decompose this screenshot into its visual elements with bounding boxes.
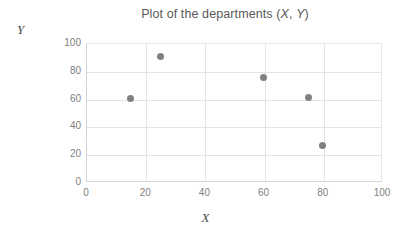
y-tick-label: 40 bbox=[53, 120, 81, 131]
data-point bbox=[127, 95, 134, 102]
x-tick-label: 80 bbox=[308, 187, 338, 198]
data-point bbox=[157, 53, 164, 60]
gridline-vertical bbox=[146, 44, 147, 181]
plot-area bbox=[86, 43, 382, 182]
chart-title-prefix: Plot of the departments ( bbox=[141, 7, 280, 21]
x-tick-label: 100 bbox=[367, 187, 397, 198]
gridline-vertical bbox=[324, 44, 325, 181]
gridline-horizontal bbox=[87, 155, 381, 156]
x-tick-label: 60 bbox=[249, 187, 279, 198]
chart-title: Plot of the departments (X, Y) bbox=[60, 7, 390, 21]
scatter-chart: Plot of the departments (X, Y) Y X 02040… bbox=[0, 0, 411, 241]
gridline-horizontal bbox=[87, 127, 381, 128]
x-axis-title: X bbox=[0, 210, 411, 226]
gridline-vertical bbox=[205, 44, 206, 181]
chart-title-suffix: ) bbox=[305, 7, 309, 21]
y-axis-title: Y bbox=[17, 22, 24, 38]
x-tick-label: 40 bbox=[189, 187, 219, 198]
y-tick-label: 20 bbox=[53, 148, 81, 159]
gridline-horizontal bbox=[87, 72, 381, 73]
gridline-vertical bbox=[265, 44, 266, 181]
x-tick-label: 0 bbox=[71, 187, 101, 198]
x-tick-label: 20 bbox=[130, 187, 160, 198]
y-tick-label: 100 bbox=[53, 37, 81, 48]
y-tick-label: 0 bbox=[53, 176, 81, 187]
chart-title-variable-x: X bbox=[281, 7, 289, 21]
chart-title-variable-y: Y bbox=[296, 7, 304, 21]
y-tick-label: 80 bbox=[53, 65, 81, 76]
data-point bbox=[305, 94, 312, 101]
y-tick-label: 60 bbox=[53, 93, 81, 104]
